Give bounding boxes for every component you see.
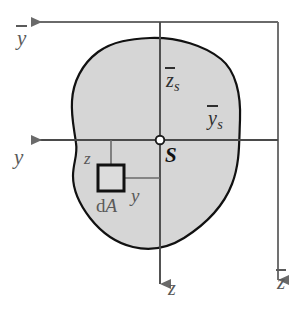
area-element-dA xyxy=(98,165,124,191)
label-z-distance: z xyxy=(84,150,91,167)
label-z-axis: z xyxy=(168,278,176,298)
label-z-bar-axis: z xyxy=(277,272,285,293)
diagram-canvas xyxy=(0,0,307,309)
centroid-marker xyxy=(156,136,165,145)
label-y-bar-axis: y xyxy=(17,28,26,49)
label-z-s-centroid-distance: zs xyxy=(166,70,180,93)
label-area-element-dA: dA xyxy=(96,196,117,215)
label-centroid-S: S xyxy=(165,145,177,166)
label-y-distance: y xyxy=(131,186,139,205)
label-y-axis: y xyxy=(14,147,23,168)
statics-cross-section-figure: y z y z zs ys S z y dA xyxy=(0,0,307,309)
label-y-s-centroid-distance: ys xyxy=(208,108,223,131)
